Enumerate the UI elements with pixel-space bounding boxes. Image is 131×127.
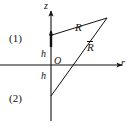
region-2-label: (2) bbox=[9, 93, 22, 104]
vector-Rbar-label: R bbox=[87, 42, 94, 53]
height-h-lower-label: h bbox=[41, 71, 46, 81]
figure-vector-graphics bbox=[0, 0, 131, 127]
origin-label: O bbox=[54, 56, 61, 66]
r-axis-label: r bbox=[121, 58, 125, 68]
height-h-upper-label: h bbox=[41, 49, 46, 59]
z-axis-label: z bbox=[44, 1, 48, 11]
figure-canvas: z r O R R h h (1) (2) bbox=[0, 0, 131, 127]
vector-R-label: R bbox=[75, 22, 82, 33]
region-1-label: (1) bbox=[9, 33, 22, 44]
vector-Rbar-label-text: R bbox=[87, 42, 94, 53]
